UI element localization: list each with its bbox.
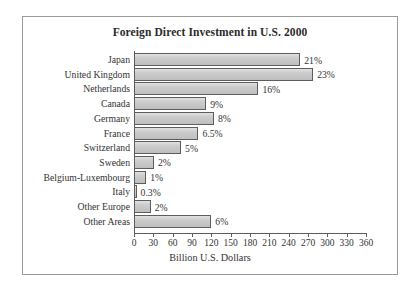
bar-row: Italy0.3% [134,185,366,198]
category-label: Netherlands [0,82,134,95]
category-label: Italy [0,185,134,198]
bar-row: United Kingdom23% [134,68,366,81]
x-axis-tick [308,233,309,237]
bar-value-label: 2% [154,157,171,168]
bar-value-label: 1% [146,172,163,183]
category-label: Japan [0,53,134,66]
chart-frame: Foreign Direct Investment in U.S. 2000 J… [22,16,398,275]
x-axis-tick [153,233,154,237]
x-axis-title: Billion U.S. Dollars [23,252,397,263]
x-axis-tick [173,233,174,237]
bar-value-label: 0.3% [137,186,161,197]
bar-row: France6.5% [134,127,366,140]
category-label: Other Areas [0,215,134,228]
bar [134,112,214,125]
category-label: Sweden [0,156,134,169]
x-axis-tick [192,233,193,237]
category-label: Switzerland [0,141,134,154]
bar [134,97,206,110]
bar [134,68,313,81]
category-label: France [0,127,134,140]
x-axis-tick [289,233,290,237]
category-label: Belgium-Luxembourg [0,171,134,184]
bar [134,200,151,213]
bar-row: Other Europe2% [134,200,366,213]
bar [134,127,198,140]
bar-value-label: 21% [300,54,322,65]
bar-row: Sweden2% [134,156,366,169]
bar-value-label: 16% [258,83,280,94]
bar [134,141,181,154]
bar-value-label: 6.5% [198,128,222,139]
x-axis-tick [211,233,212,237]
bar-value-label: 8% [214,113,231,124]
x-axis-tick [250,233,251,237]
bar-row: Japan21% [134,53,366,66]
bar [134,156,154,169]
category-label: United Kingdom [0,68,134,81]
category-label: Canada [0,97,134,110]
bar-value-label: 6% [211,216,228,227]
category-label: Germany [0,112,134,125]
bar-row: Germany8% [134,112,366,125]
bar-row: Belgium-Luxembourg1% [134,171,366,184]
x-axis-tick [134,233,135,237]
bar-row: Canada9% [134,97,366,110]
plot-area: Japan21%United Kingdom23%Netherlands16%C… [111,51,363,233]
bar-row: Netherlands16% [134,82,366,95]
bar [134,215,211,228]
x-axis-tick [347,233,348,237]
bar-value-label: 2% [151,201,168,212]
x-axis-tick [366,233,367,237]
chart-title: Foreign Direct Investment in U.S. 2000 [23,26,397,38]
bar [134,53,300,66]
x-axis-tick [269,233,270,237]
x-axis-tick-label: 360 [351,238,381,248]
bar-value-label: 23% [313,69,335,80]
bar [134,171,146,184]
bar-value-label: 9% [206,98,223,109]
bar-row: Other Areas6% [134,215,366,228]
bar-value-label: 5% [181,142,198,153]
category-label: Other Europe [0,200,134,213]
x-axis-tick [231,233,232,237]
bar-row: Switzerland5% [134,141,366,154]
bar [134,82,258,95]
x-axis-tick [327,233,328,237]
